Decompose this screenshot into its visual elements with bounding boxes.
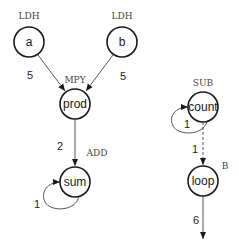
weight-b-prod: 5	[120, 70, 126, 82]
node-sum: ADD sum	[60, 148, 107, 197]
node-a: LDH a	[14, 11, 44, 57]
weight-prod-sum: 2	[57, 140, 63, 152]
weight-count-self: 1	[184, 118, 190, 130]
op-label-b: LDH	[111, 11, 132, 21]
node-loop: B loop	[188, 161, 229, 196]
weight-count-loop: 1	[192, 143, 198, 155]
node-label-a: a	[26, 35, 33, 49]
node-prod: MPY prod	[60, 75, 90, 119]
weight-sum-self: 1	[34, 198, 40, 210]
edge-b-prod	[86, 55, 113, 91]
weight-a-prod: 5	[27, 69, 33, 81]
op-label-count: SUB	[193, 78, 214, 88]
node-label-b: b	[119, 35, 126, 49]
op-label-sum: ADD	[86, 148, 108, 158]
op-label-prod: MPY	[64, 75, 86, 85]
dependency-graph: LDH a LDH b MPY prod ADD sum SUB count B…	[0, 0, 239, 248]
edge-a-prod	[38, 55, 65, 91]
weight-loop-exit: 6	[193, 214, 199, 226]
op-label-a: LDH	[18, 11, 39, 21]
node-label-prod: prod	[63, 97, 87, 111]
node-label-sum: sum	[64, 175, 87, 189]
op-label-loop: B	[222, 161, 229, 171]
node-b: LDH b	[107, 11, 137, 57]
node-label-loop: loop	[192, 174, 215, 188]
node-count: SUB count	[188, 78, 218, 122]
node-label-count: count	[188, 100, 218, 114]
